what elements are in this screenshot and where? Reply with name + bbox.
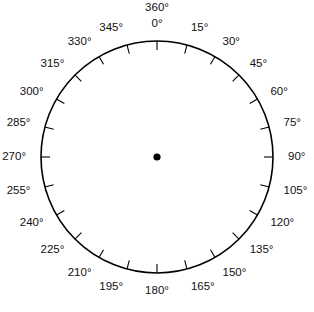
tick-label: 330° bbox=[68, 35, 92, 47]
tick-mark bbox=[185, 260, 187, 269]
tick-mark bbox=[185, 45, 187, 54]
tick-mark bbox=[45, 185, 54, 187]
tick-label: 210° bbox=[68, 266, 92, 278]
tick-label: 30° bbox=[223, 35, 240, 47]
tick-label-group: 0°360°15°30°45°60°75°90°105°120°135°150°… bbox=[2, 1, 307, 296]
tick-mark bbox=[57, 211, 65, 216]
tick-mark bbox=[75, 233, 81, 239]
tick-mark bbox=[233, 233, 239, 239]
tick-mark bbox=[233, 75, 239, 81]
protractor-dial: 0°360°15°30°45°60°75°90°105°120°135°150°… bbox=[0, 0, 314, 312]
tick-mark bbox=[99, 250, 104, 258]
tick-mark bbox=[127, 45, 129, 54]
tick-label: 150° bbox=[223, 266, 247, 278]
tick-label: 0° bbox=[152, 17, 163, 29]
tick-label: 75° bbox=[284, 116, 301, 128]
data-point-group bbox=[153, 153, 160, 160]
tick-label: 195° bbox=[99, 280, 123, 292]
tick-label: 45° bbox=[250, 57, 267, 69]
tick-label: 135° bbox=[250, 243, 274, 255]
tick-label: 270° bbox=[2, 150, 26, 162]
tick-label: 345° bbox=[99, 21, 123, 33]
tick-label: 225° bbox=[41, 243, 65, 255]
tick-mark bbox=[260, 127, 269, 129]
protractor-figure: 0°360°15°30°45°60°75°90°105°120°135°150°… bbox=[0, 0, 314, 312]
tick-label: 180° bbox=[145, 284, 169, 296]
tick-label: 285° bbox=[7, 116, 31, 128]
tick-label: 90° bbox=[288, 150, 305, 162]
tick-label: 105° bbox=[284, 184, 308, 196]
tick-label: 300° bbox=[20, 85, 44, 97]
tick-label: 15° bbox=[191, 21, 208, 33]
tick-mark bbox=[127, 260, 129, 269]
tick-label-alternate: 360° bbox=[145, 1, 169, 13]
tick-label: 240° bbox=[20, 216, 44, 228]
tick-mark bbox=[250, 99, 258, 104]
tick-mark bbox=[99, 57, 104, 65]
tick-mark bbox=[260, 185, 269, 187]
tick-mark bbox=[45, 127, 54, 129]
tick-label: 255° bbox=[7, 184, 31, 196]
tick-mark bbox=[250, 211, 258, 216]
tick-label: 315° bbox=[41, 57, 65, 69]
tick-mark bbox=[57, 99, 65, 104]
tick-label: 165° bbox=[191, 280, 215, 292]
tick-label: 120° bbox=[270, 216, 294, 228]
tick-mark bbox=[211, 57, 216, 65]
tick-mark bbox=[75, 75, 81, 81]
center-point bbox=[153, 153, 160, 160]
tick-mark bbox=[211, 250, 216, 258]
tick-label: 60° bbox=[270, 85, 287, 97]
